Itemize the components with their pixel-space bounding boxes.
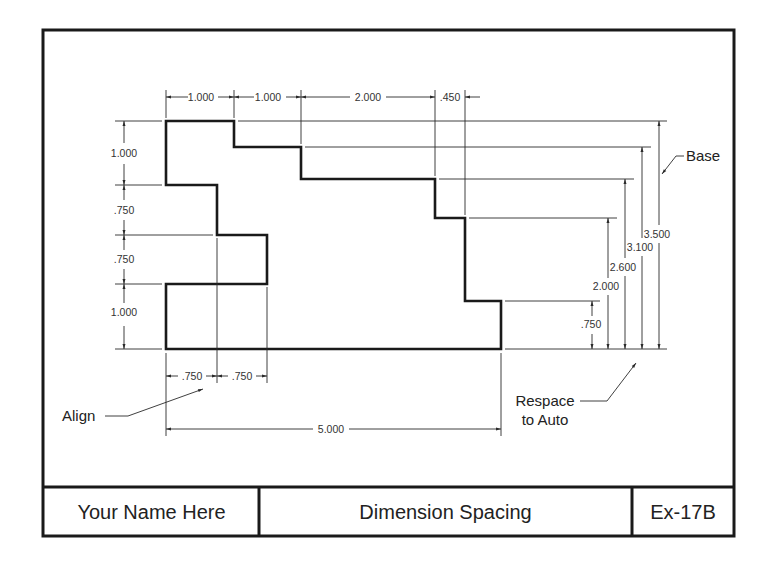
respace-note-line2: to Auto bbox=[522, 411, 569, 428]
bottom-dimensions bbox=[166, 238, 501, 436]
dim-top-4: .450 bbox=[440, 91, 461, 103]
drawing-border bbox=[43, 30, 734, 536]
base-note: Base bbox=[686, 147, 720, 164]
dim-top-2: 1.000 bbox=[255, 91, 281, 103]
right-dimensions bbox=[238, 121, 667, 349]
top-dimensions bbox=[166, 90, 480, 215]
dim-right-2: 2.000 bbox=[593, 280, 619, 292]
align-leader bbox=[105, 389, 203, 416]
dim-top-1: 1.000 bbox=[188, 91, 214, 103]
title-block-title: Dimension Spacing bbox=[260, 488, 631, 536]
respace-note-line1: Respace bbox=[515, 392, 574, 409]
title-block-exercise: Ex-17B bbox=[633, 488, 733, 536]
dim-bottom-1: .750 bbox=[182, 370, 203, 382]
dim-left-3: .750 bbox=[114, 253, 135, 265]
base-leader bbox=[662, 156, 684, 174]
dim-left-1: 1.000 bbox=[111, 147, 137, 159]
dim-right-4: 3.100 bbox=[627, 241, 653, 253]
dim-bottom-2: .750 bbox=[232, 370, 253, 382]
dim-left-4: 1.000 bbox=[111, 306, 137, 318]
dim-overall-width: 5.000 bbox=[318, 423, 344, 435]
part-outline bbox=[166, 121, 501, 349]
title-block-name: Your Name Here bbox=[45, 488, 258, 536]
drawing-canvas: 1.000 1.000 2.000 .450 1.000 .750 .750 1… bbox=[0, 0, 757, 561]
dim-right-3: 2.600 bbox=[610, 261, 636, 273]
dim-top-3: 2.000 bbox=[355, 91, 381, 103]
dim-right-1: .750 bbox=[581, 318, 602, 330]
respace-leader bbox=[580, 363, 636, 401]
dim-left-2: .750 bbox=[114, 204, 135, 216]
dim-right-5: 3.500 bbox=[644, 228, 670, 240]
align-note: Align bbox=[62, 407, 95, 424]
